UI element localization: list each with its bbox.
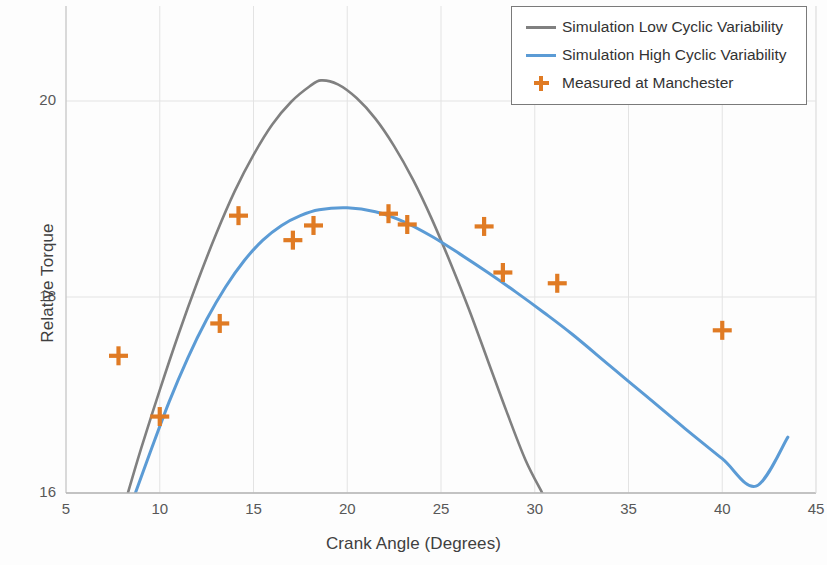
legend-item-simulation-high: Simulation High Cyclic Variability: [522, 41, 798, 69]
x-tick-label: 40: [702, 500, 742, 517]
x-tick-label: 15: [234, 500, 274, 517]
x-tick-label: 35: [609, 500, 649, 517]
x-tick-label: 25: [421, 500, 461, 517]
legend-item-label: Simulation Low Cyclic Variability: [560, 18, 783, 36]
x-tick-label: 30: [515, 500, 555, 517]
legend-item-label: Simulation High Cyclic Variability: [560, 46, 787, 64]
legend-item-measured: Measured at Manchester: [522, 69, 798, 97]
legend-item-simulation-low: Simulation Low Cyclic Variability: [522, 13, 798, 41]
chart-legend: Simulation Low Cyclic Variability Simula…: [511, 6, 807, 105]
series-line-0: [128, 80, 542, 493]
y-axis-title: Relative Torque: [38, 173, 58, 393]
legend-item-label: Measured at Manchester: [560, 74, 733, 92]
legend-line-swatch-blue-icon: [522, 54, 560, 57]
data-series-layer: [109, 80, 788, 493]
legend-cross-marker-icon: [522, 76, 560, 91]
y-tick-label: 16: [16, 483, 56, 500]
x-tick-label: 45: [796, 500, 827, 517]
series-line-1: [135, 208, 788, 493]
x-tick-label: 5: [46, 500, 86, 517]
x-tick-label: 10: [140, 500, 180, 517]
x-tick-label: 20: [327, 500, 367, 517]
series-markers-2: [109, 204, 732, 426]
y-tick-label: 20: [16, 91, 56, 108]
x-axis-title: Crank Angle (Degrees): [0, 534, 827, 554]
legend-line-swatch-gray-icon: [522, 26, 560, 29]
chart-container: 51015202530354045 161820 Crank Angle (De…: [0, 0, 827, 565]
